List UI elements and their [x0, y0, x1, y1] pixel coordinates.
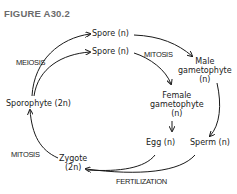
process-fertilization: FERTILIZATION — [116, 177, 167, 186]
figure-title: FIGURE A30.2 — [4, 8, 70, 19]
process-mitosis-top: MITOSIS — [144, 50, 173, 59]
node-egg: Egg (n) — [146, 138, 175, 147]
process-mitosis-left: MITOSIS — [11, 150, 40, 159]
node-male-gametophyte: Male gametophyte (n) — [178, 57, 232, 84]
arrow-sperm-zygote — [86, 155, 195, 172]
arrow-male-sperm — [210, 83, 220, 136]
process-meiosis: MEIOSIS — [16, 58, 45, 67]
node-spore-1: Spore (n) — [92, 29, 129, 38]
arrow-egg-zygote — [88, 155, 155, 170]
node-female-gametophyte: Female gametophyte (n) — [150, 91, 204, 118]
node-sporophyte: Sporophyte (2n) — [6, 99, 71, 108]
node-spore-2: Spore (n) — [92, 47, 129, 56]
node-zygote: Zygote (2n) — [59, 154, 87, 172]
node-sperm: Sperm (n) — [190, 138, 230, 147]
